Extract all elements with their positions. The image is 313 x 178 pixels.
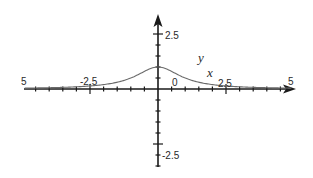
x-tick-label-2-5: 2.5 <box>218 78 232 89</box>
x-tick-label-left-clipped: 5 <box>21 76 27 87</box>
curve-label-y: y <box>196 50 204 65</box>
y-tick-label-neg-2-5: -2.5 <box>162 150 180 161</box>
curve-label-x: x <box>206 65 213 80</box>
function-plot: 5 -2.5 0 2.5 5 2.5 -2.5 y x <box>0 0 313 178</box>
y-tick-label-2-5: 2.5 <box>165 30 179 41</box>
x-axis <box>24 84 296 94</box>
x-tick-label-neg-2-5: -2.5 <box>80 76 98 87</box>
x-tick-label-0: 0 <box>172 77 178 88</box>
x-tick-label-right-clipped: 5 <box>288 76 294 87</box>
y-axis <box>153 14 163 167</box>
